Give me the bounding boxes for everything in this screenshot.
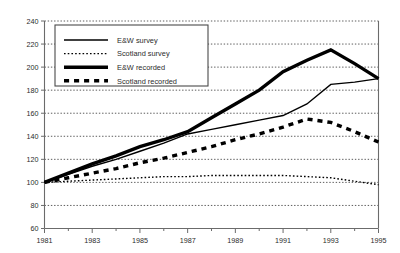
y-tick-label: 240	[27, 17, 39, 26]
x-tick-label: 1991	[275, 236, 291, 245]
x-tick-label: 1989	[227, 236, 243, 245]
x-tick-label: 1987	[180, 236, 196, 245]
legend-label-scotland-survey: Scotland survey	[117, 49, 170, 58]
y-tick-label: 200	[27, 63, 39, 72]
y-tick-label: 60	[31, 224, 39, 233]
x-tick-label: 1993	[323, 236, 339, 245]
y-tick-label: 160	[27, 109, 39, 118]
line-chart: 6080100120140160180200220240 19811983198…	[0, 0, 400, 253]
legend-label-scotland-recorded: Scotland recorded	[117, 77, 177, 86]
legend-label-ew-recorded: E&W recorded	[117, 63, 165, 72]
y-tick-label: 120	[27, 155, 39, 164]
y-tick-label: 80	[31, 201, 39, 210]
x-tick-label: 1983	[84, 236, 100, 245]
y-tick-label: 180	[27, 86, 39, 95]
x-tick-label: 1981	[37, 236, 53, 245]
y-tick-label: 100	[27, 178, 39, 187]
legend-label-ew-survey: E&W survey	[117, 36, 158, 45]
chart-legend: E&W surveyScotland surveyE&W recordedSco…	[55, 25, 208, 86]
y-tick-label: 140	[27, 132, 39, 141]
chart-container: 6080100120140160180200220240 19811983198…	[0, 0, 400, 253]
y-tick-label: 220	[27, 40, 39, 49]
x-tick-label: 1985	[132, 236, 148, 245]
x-tick-label: 1995	[371, 236, 387, 245]
